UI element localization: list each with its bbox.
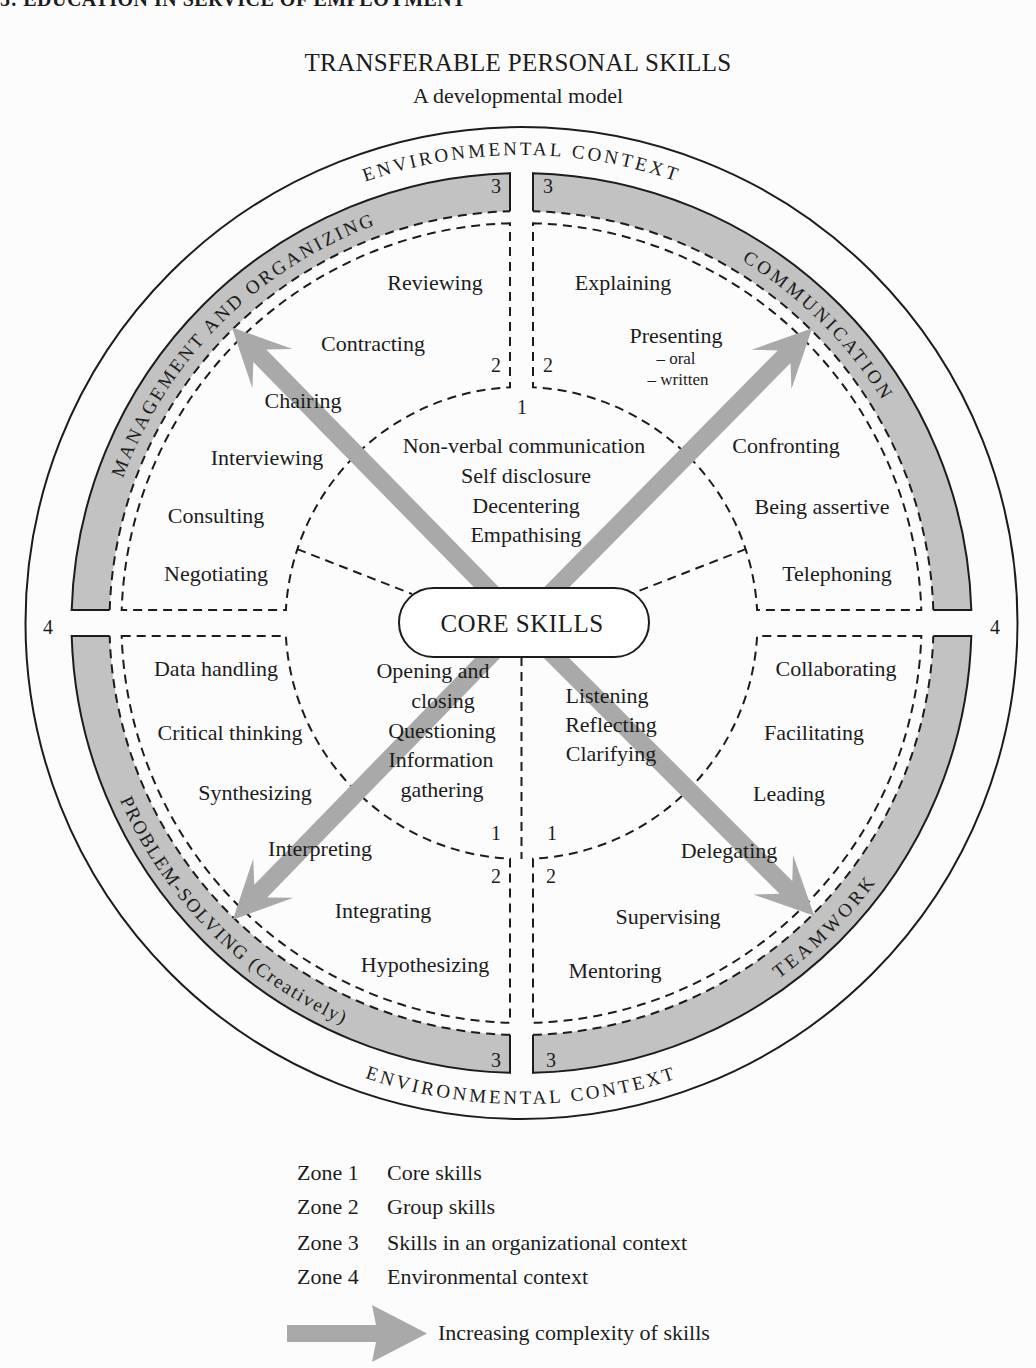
environment-label-bottom: ENVIRONMENTAL CONTEXT (364, 1062, 680, 1108)
legend-zone-desc: Environmental context (387, 1264, 588, 1289)
zone3-marker: 3 (546, 1049, 556, 1071)
core-skill-information: Information (388, 747, 493, 772)
zone4-marker: 4 (43, 616, 53, 638)
core-skills-label: CORE SKILLS (440, 610, 603, 637)
legend-zone-label: Zone 1 (297, 1160, 359, 1185)
skill-chairing: Chairing (265, 388, 342, 413)
zone4-marker: 4 (990, 616, 1000, 638)
core-skill-clarifying: Clarifying (566, 741, 656, 766)
skill-consulting: Consulting (168, 503, 265, 528)
core-skill-reflecting: Reflecting (565, 712, 657, 737)
skill-contracting: Contracting (321, 331, 425, 356)
running-head: 5: EDUCATION IN SERVICE OF EMPLOYMENT (0, 0, 466, 10)
core-skills-bottom-left: Opening and closing Questioning Informat… (376, 658, 495, 802)
legend-arrow-icon (287, 1305, 427, 1362)
environment-label-top: ENVIRONMENTAL CONTEXT (360, 138, 684, 186)
skill-being-assertive: Being assertive (754, 494, 889, 519)
skill-supervising: Supervising (615, 904, 720, 929)
core-skill-listening: Listening (565, 683, 648, 708)
skill-confronting: Confronting (732, 433, 840, 458)
zone1-marker: 1 (547, 822, 557, 844)
core-skill-closing: closing (411, 688, 475, 713)
zone2-marker: 2 (491, 865, 501, 887)
skill-hypothesizing: Hypothesizing (361, 952, 489, 977)
legend-arrow-label: Increasing complexity of skills (438, 1320, 710, 1345)
core-skill-questioning: Questioning (388, 718, 496, 743)
core-skill-gathering: gathering (400, 777, 483, 802)
skill-reviewing: Reviewing (387, 270, 482, 295)
skill-leading: Leading (753, 781, 825, 806)
skill-data-handling: Data handling (154, 656, 278, 681)
skill-interpreting: Interpreting (268, 836, 372, 861)
core-skill-non-verbal: Non-verbal communication (403, 433, 646, 458)
skill-interviewing: Interviewing (211, 445, 323, 470)
legend-zone-label: Zone 4 (297, 1264, 359, 1289)
skill-critical-thinking: Critical thinking (158, 720, 303, 745)
core-skill-empathising: Empathising (470, 522, 581, 547)
zone1-marker: 1 (491, 822, 501, 844)
skill-presenting: Presenting (630, 323, 723, 348)
skill-collaborating: Collaborating (776, 656, 897, 681)
legend-zone-desc: Skills in an organizational context (387, 1230, 687, 1255)
zone3-marker: 3 (543, 175, 553, 197)
legend: Zone 1 Core skills Zone 2 Group skills Z… (287, 1160, 710, 1362)
skill-mentoring: Mentoring (569, 958, 662, 983)
legend-zone-desc: Core skills (387, 1160, 482, 1185)
legend-zone-label: Zone 3 (297, 1230, 359, 1255)
legend-zone-label: Zone 2 (297, 1194, 359, 1219)
core-skills-bottom-right: Listening Reflecting Clarifying (565, 683, 657, 766)
diagram-subtitle: A developmental model (413, 83, 623, 108)
zone2-marker: 2 (546, 865, 556, 887)
core-skill-decentering: Decentering (472, 493, 580, 518)
legend-zone-desc: Group skills (387, 1194, 495, 1219)
skill-presenting-written: – written (647, 370, 709, 389)
skill-delegating: Delegating (681, 838, 778, 863)
zone1-marker: 1 (517, 396, 527, 418)
zone2-marker: 2 (543, 354, 553, 376)
skill-facilitating: Facilitating (764, 720, 864, 745)
skill-telephoning: Telephoning (782, 561, 892, 586)
zone3-marker: 3 (491, 1049, 501, 1071)
skill-integrating: Integrating (335, 898, 432, 923)
skill-explaining: Explaining (575, 270, 672, 295)
skill-negotiating: Negotiating (164, 561, 268, 586)
skill-synthesizing: Synthesizing (198, 780, 312, 805)
transferable-skills-diagram: 5: EDUCATION IN SERVICE OF EMPLOYMENT TR… (0, 0, 1036, 1368)
diagram-title: TRANSFERABLE PERSONAL SKILLS (305, 49, 732, 76)
core-skill-opening: Opening and (376, 658, 489, 683)
skill-presenting-oral: – oral (655, 349, 695, 368)
zone3-marker: 3 (491, 175, 501, 197)
zone2-marker: 2 (491, 354, 501, 376)
core-skill-self-disclosure: Self disclosure (461, 463, 591, 488)
